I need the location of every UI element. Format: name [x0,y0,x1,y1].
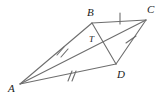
geometry-diagram-svg: A B C D T [0,0,161,98]
tick-mark-ab-double [57,47,68,57]
vertex-label-a: A [7,82,15,94]
geometry-figure: A B C D T [0,0,161,98]
vertex-label-c: C [147,3,155,15]
segment-bc [92,20,146,23]
intersection-label-t: T [89,34,95,44]
diagonal-bd [92,23,116,64]
diagonal-ac [20,20,146,84]
vertex-label-b: B [87,6,94,18]
segment-cd [116,20,146,64]
vertex-label-d: D [116,68,125,80]
